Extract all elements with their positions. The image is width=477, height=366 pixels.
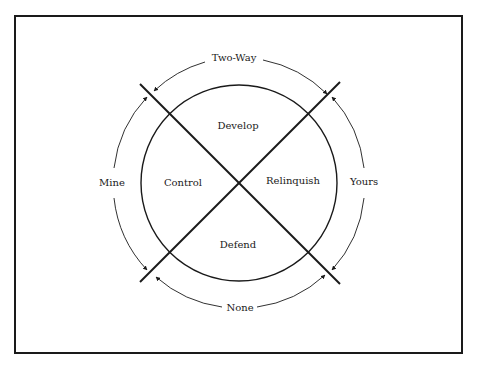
outer-arc-bottom-right <box>257 275 325 307</box>
outer-arc-top-left <box>154 62 205 91</box>
quadrant-label-right: Relinquish <box>266 175 320 186</box>
outer-arc-right-lower <box>332 198 364 270</box>
outer-label-bottom: None <box>226 302 253 313</box>
outer-arc-left-upper <box>114 97 147 168</box>
diagram-canvas: Develop Control Relinquish Defend Two-Wa… <box>0 0 477 366</box>
ownership-diagram: Develop Control Relinquish Defend Two-Wa… <box>0 0 477 366</box>
outer-label-right: Yours <box>349 176 378 187</box>
outer-label-top: Two-Way <box>212 52 257 63</box>
quadrant-label-top: Develop <box>217 120 258 131</box>
outer-arc-bottom-left <box>156 277 222 307</box>
outer-arc-left-lower <box>114 198 147 270</box>
quadrant-label-bottom: Defend <box>220 239 257 250</box>
outer-arc-top-right <box>263 60 327 94</box>
outer-label-left: Mine <box>99 177 125 188</box>
outer-arc-right-upper <box>332 97 364 168</box>
quadrant-label-left: Control <box>164 177 202 188</box>
